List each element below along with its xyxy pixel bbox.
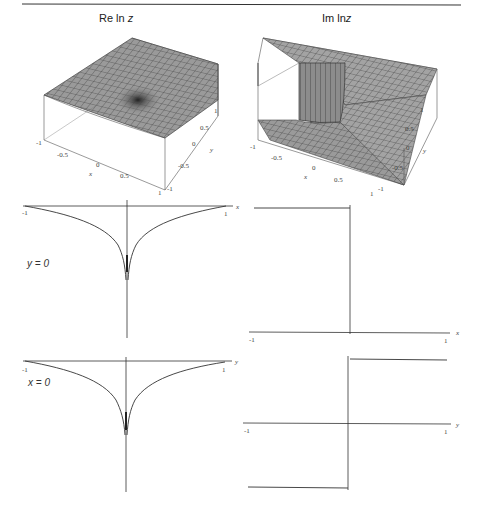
svg-text:0.5: 0.5 [200,124,209,132]
step-top [350,359,447,360]
top-rule [22,4,461,5]
svg-text:x: x [235,203,240,211]
re-surface-singularity [116,86,160,114]
curve-right [127,362,225,435]
slice-label-y0: y = 0 [26,258,49,269]
svg-text:1: 1 [222,366,226,374]
svg-text:-1: -1 [22,366,28,374]
re-surface-plot: Re ln z -1 -0.5 0 x 0.5 1 -1 -0.5 0 y 0.… [36,12,218,197]
x-axis [243,423,451,424]
re-slice-y0-plot: -1 1 x y = 0 [22,200,240,338]
svg-text:-0.5: -0.5 [57,151,69,159]
im-slice-y0-plot: -1 1 x [249,205,460,345]
svg-text:-1: -1 [378,185,384,193]
slice-label-x0: x = 0 [27,377,50,388]
svg-text:1: 1 [370,190,374,198]
im-surface-branch-cut-wall [299,63,345,123]
figure: Re ln z -1 -0.5 0 x 0.5 1 -1 -0.5 0 y 0.… [0,0,483,517]
re-surface-title: Re ln z [99,12,134,24]
svg-text:-1: -1 [244,427,250,435]
svg-text:y: y [209,146,214,154]
svg-text:0: 0 [406,144,410,152]
svg-text:0: 0 [192,140,196,148]
svg-text:1: 1 [444,428,448,436]
svg-text:0.5: 0.5 [120,172,129,180]
step-bottom [248,487,348,488]
svg-text:-1: -1 [250,143,256,151]
svg-text:-1: -1 [249,336,255,344]
svg-text:1: 1 [158,189,162,197]
im-slice-x0-plot: -1 1 y [243,356,460,490]
im-surface-title: Im lnz [322,12,352,24]
svg-text:-1: -1 [167,185,173,193]
svg-text:-0.5: -0.5 [178,162,190,170]
svg-text:-1: -1 [22,209,28,217]
curve-left [25,361,125,435]
svg-text:0.5: 0.5 [334,176,343,184]
svg-text:0: 0 [96,161,100,169]
svg-text:-1: -1 [36,139,42,147]
svg-text:1: 1 [224,210,228,218]
svg-text:x: x [455,329,460,337]
curve-right [128,206,226,280]
svg-text:x: x [88,170,93,178]
svg-text:y: y [455,421,460,429]
svg-text:y: y [422,147,427,155]
im-surface-plot: Im lnz -1 -0.5 0 x 0.5 1 -1 -0.5 0 y 0.5… [250,12,437,198]
re-slice-x0-plot: -1 1 y x = 0 [22,357,239,492]
x-axis [249,332,450,333]
svg-text:y: y [234,358,239,366]
svg-text:0: 0 [312,164,316,172]
svg-text:x: x [303,173,308,181]
svg-text:1: 1 [420,106,424,114]
svg-text:-0.5: -0.5 [271,154,283,162]
svg-text:0.5: 0.5 [405,125,414,133]
im-surface-upper-sheet [263,38,437,105]
svg-text:1: 1 [444,337,448,345]
svg-text:1: 1 [214,107,218,115]
svg-text:-0.5: -0.5 [392,164,404,172]
